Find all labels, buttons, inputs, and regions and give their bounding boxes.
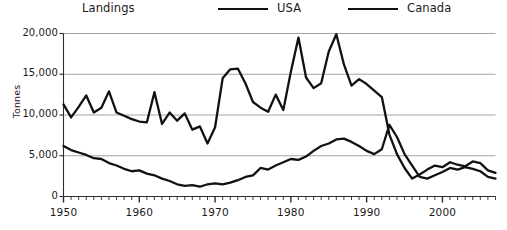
data-series bbox=[64, 34, 496, 186]
series-line-usa bbox=[64, 34, 496, 178]
landings-line-chart: Landings USA Canada Tonnes 05,00010,0001… bbox=[0, 0, 507, 230]
y-axis-ticks bbox=[60, 34, 64, 197]
x-axis-ticks bbox=[64, 197, 496, 203]
plot-area bbox=[0, 0, 507, 230]
gridlines bbox=[64, 34, 496, 156]
